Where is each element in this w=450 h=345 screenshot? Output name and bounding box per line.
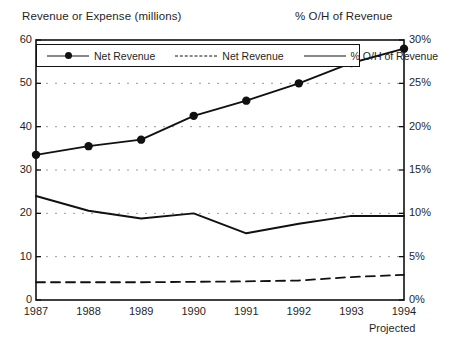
x-axis-label: 1989 [118, 305, 164, 317]
y-axis-label-left: 40 [2, 120, 32, 132]
y-axis-label-right: 15% [409, 163, 449, 175]
projected-note: Projected [369, 322, 415, 334]
x-axis-label: 1987 [13, 305, 59, 317]
series-line-1 [36, 275, 404, 282]
legend-item-oh-of-revenue: % O/H of Revenue [304, 50, 439, 62]
data-point-marker [242, 96, 250, 104]
y-axis-label-right: 0% [409, 293, 449, 305]
y-axis-label-left: 0 [2, 293, 32, 305]
data-point-marker [190, 112, 198, 120]
y-axis-label-left: 60 [2, 33, 32, 45]
x-axis-label: 1992 [276, 305, 322, 317]
chart-legend: Net Revenue Net Revenue % O/H of Revenue [36, 44, 360, 67]
y-axis-label-right: 30% [409, 33, 449, 45]
legend-item-net-revenue-solid: Net Revenue [47, 50, 155, 62]
y-axis-label-left: 30 [2, 163, 32, 175]
legend-label: Net Revenue [94, 50, 155, 62]
y-axis-label-left: 10 [2, 250, 32, 262]
x-axis-label: 1994 [381, 305, 427, 317]
y-axis-label-right: 25% [409, 76, 449, 88]
y-axis-label-right: 20% [409, 120, 449, 132]
series-line-2 [36, 196, 404, 233]
x-axis-label: 1990 [171, 305, 217, 317]
line-marker-icon [47, 50, 89, 62]
legend-label: % O/H of Revenue [351, 50, 439, 62]
data-point-marker [295, 79, 303, 87]
y-axis-label-left: 50 [2, 76, 32, 88]
data-point-marker [32, 151, 40, 159]
data-point-marker [137, 135, 145, 143]
x-axis-label: 1991 [223, 305, 269, 317]
legend-item-net-revenue-dashed: Net Revenue [175, 50, 283, 62]
solid-line-icon [304, 50, 346, 62]
x-axis-label: 1988 [66, 305, 112, 317]
y-axis-label-right: 10% [409, 206, 449, 218]
dashed-line-icon [175, 50, 217, 62]
y-axis-label-left: 20 [2, 206, 32, 218]
y-axis-label-right: 5% [409, 250, 449, 262]
x-axis-label: 1993 [328, 305, 374, 317]
legend-label: Net Revenue [222, 50, 283, 62]
data-point-marker [84, 142, 92, 150]
chart-container: Revenue or Expense (millions) % O/H of R… [0, 0, 450, 345]
